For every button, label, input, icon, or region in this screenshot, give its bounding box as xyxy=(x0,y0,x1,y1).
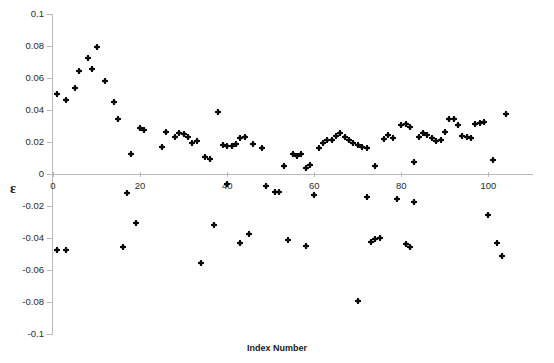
data-point xyxy=(382,137,386,141)
data-point xyxy=(408,125,412,129)
y-tick-label: -0.06 xyxy=(0,265,44,275)
data-point xyxy=(73,86,77,90)
data-point xyxy=(186,135,190,139)
y-tick-label: 0.04 xyxy=(0,105,44,115)
data-point xyxy=(247,232,251,236)
data-point xyxy=(365,146,369,150)
data-point xyxy=(64,98,68,102)
data-point xyxy=(369,240,373,244)
data-point xyxy=(260,146,264,150)
scatter-chart: 0.10.080.060.040.020-0.02-0.04-0.06-0.08… xyxy=(0,0,554,363)
data-point xyxy=(282,164,286,168)
data-point xyxy=(230,144,234,148)
data-point xyxy=(103,79,107,83)
data-point xyxy=(317,146,321,150)
data-point xyxy=(469,136,473,140)
y-tick-label: -0.08 xyxy=(0,297,44,307)
data-point xyxy=(304,166,308,170)
data-point xyxy=(121,245,125,249)
y-tick-label: -0.1 xyxy=(0,329,44,339)
data-point xyxy=(378,236,382,240)
y-tick-label: -0.02 xyxy=(0,201,44,211)
data-point xyxy=(395,197,399,201)
data-point xyxy=(304,244,308,248)
data-point xyxy=(212,223,216,227)
data-point xyxy=(504,112,508,116)
x-axis-title: Index Number xyxy=(0,343,554,354)
data-point xyxy=(491,158,495,162)
data-point xyxy=(160,145,164,149)
data-point xyxy=(391,136,395,140)
data-point xyxy=(134,221,138,225)
data-point xyxy=(365,195,369,199)
data-point xyxy=(234,142,238,146)
data-point xyxy=(208,157,212,161)
data-point xyxy=(95,45,99,49)
y-tick-label: 0 xyxy=(0,169,44,179)
data-point xyxy=(500,254,504,258)
data-point xyxy=(308,163,312,167)
data-point xyxy=(439,138,443,142)
data-point xyxy=(417,135,421,139)
data-point xyxy=(330,138,334,142)
y-tick-label: 0.1 xyxy=(0,9,44,19)
data-point xyxy=(286,238,290,242)
data-point xyxy=(199,261,203,265)
data-point xyxy=(443,130,447,134)
data-point xyxy=(243,135,247,139)
chart-title xyxy=(0,0,554,4)
y-tick-mark xyxy=(47,334,53,335)
data-point xyxy=(125,191,129,195)
y-tick-label: -0.04 xyxy=(0,233,44,243)
plot-area xyxy=(53,14,532,334)
y-tick-label: 0.06 xyxy=(0,73,44,83)
y-tick-label: 0.02 xyxy=(0,137,44,147)
y-axis-title: ε xyxy=(10,182,16,196)
data-point xyxy=(404,242,408,246)
y-tick-label: 0.08 xyxy=(0,41,44,51)
data-point xyxy=(112,100,116,104)
data-point xyxy=(173,135,177,139)
data-point xyxy=(195,139,199,143)
